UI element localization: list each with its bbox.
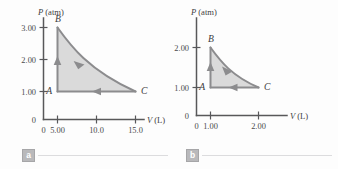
point-label-c: C xyxy=(264,81,271,92)
pv-diagram-a: 3.00 2.00 1.00 0 0 5.00 10.0 15.0 P(atm)… xyxy=(0,0,169,146)
y-ticklabel-3: 3.00 xyxy=(21,24,36,33)
point-label-a: A xyxy=(45,85,52,96)
x-axis-symbol-b: V xyxy=(290,111,297,121)
x-axis-title-b: V(L) xyxy=(290,111,308,121)
x-ticklabel-5: 5.00 xyxy=(50,126,65,135)
y-ticklabel-2: 2.00 xyxy=(21,56,36,65)
y-ticklabel-1: 1.00 xyxy=(174,84,189,93)
caption-row-a: a xyxy=(22,146,168,164)
caption-badge-b: b xyxy=(186,149,199,162)
y-ticklabel-0: 0 xyxy=(185,112,189,121)
y-ticklabel-1: 1.00 xyxy=(21,88,36,97)
x-ticklabel-10: 10.0 xyxy=(89,126,104,135)
shaded-cycle-region-b xyxy=(211,48,259,88)
x-ticklabel-0: 0 xyxy=(41,126,45,135)
y-axis-symbol-a: P xyxy=(37,7,44,17)
y-axis-symbol-b: P xyxy=(190,7,197,17)
y-axis-title-b: P(atm) xyxy=(190,7,217,17)
y-axis-unit-b: (atm) xyxy=(198,7,217,17)
x-ticklabel-15: 15.0 xyxy=(128,126,143,135)
x-axis-unit-b: (L) xyxy=(297,111,308,121)
x-axis-title-a: V(L) xyxy=(147,115,165,125)
x-ticklabel-2: 2.00 xyxy=(251,122,266,131)
caption-badge-a: a xyxy=(22,149,35,162)
y-ticklabel-2: 2.00 xyxy=(174,44,189,53)
x-axis-unit-a: (L) xyxy=(154,115,165,125)
caption-rule-a xyxy=(38,155,168,156)
panel-b: 2.00 1.00 0 0 1.00 2.00 P(atm) V(L) A B … xyxy=(169,0,338,169)
point-label-a: A xyxy=(198,81,205,92)
caption-row-b: b xyxy=(186,146,332,164)
x-ticklabel-1: 1.00 xyxy=(203,122,218,131)
figure-container: 3.00 2.00 1.00 0 0 5.00 10.0 15.0 P(atm)… xyxy=(0,0,338,169)
x-ticklabel-0: 0 xyxy=(194,122,198,131)
pv-diagram-b: 2.00 1.00 0 0 1.00 2.00 P(atm) V(L) A B … xyxy=(169,0,338,146)
shaded-cycle-region-a xyxy=(58,28,136,92)
y-ticklabel-0: 0 xyxy=(32,116,36,125)
point-label-b: B xyxy=(55,13,61,24)
point-label-c: C xyxy=(141,85,148,96)
point-label-b: B xyxy=(208,33,214,44)
caption-rule-b xyxy=(202,155,332,156)
x-axis-symbol-a: V xyxy=(147,115,154,125)
panel-a: 3.00 2.00 1.00 0 0 5.00 10.0 15.0 P(atm)… xyxy=(0,0,169,169)
